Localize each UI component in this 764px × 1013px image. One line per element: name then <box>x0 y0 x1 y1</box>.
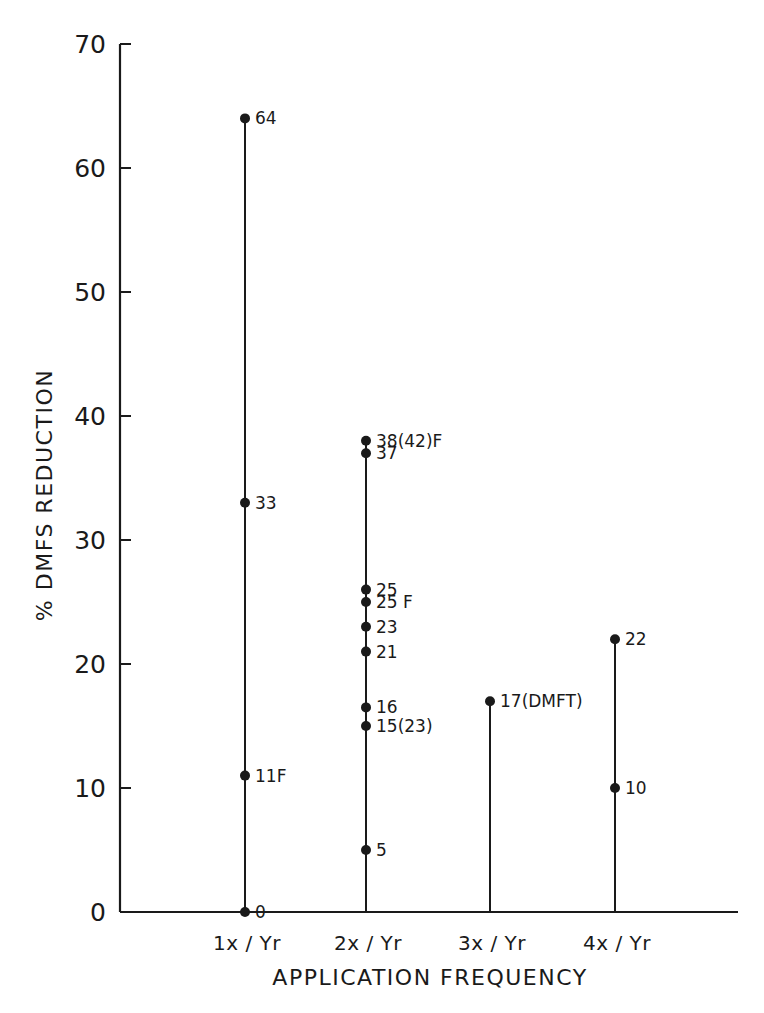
x-axis-title: APPLICATION FREQUENCY <box>272 965 587 990</box>
data-point-label: 64 <box>255 108 277 128</box>
y-tick-label: 0 <box>90 898 106 927</box>
data-point <box>610 634 620 644</box>
series-2x-per-year: 38(42)F372525 F23211615(23)5 <box>361 431 442 912</box>
data-point-label: 10 <box>625 778 647 798</box>
data-point-label: 22 <box>625 629 647 649</box>
data-point-label: 25 F <box>376 592 413 612</box>
y-tick-label: 60 <box>74 154 106 183</box>
data-point-label: 0 <box>255 902 266 922</box>
data-point-label: 33 <box>255 493 277 513</box>
data-point <box>240 113 250 123</box>
x-category-label: 2x / Yr <box>334 931 402 955</box>
x-axis: 1x / Yr2x / Yr3x / Yr4x / Yr <box>120 912 738 955</box>
data-point <box>361 702 371 712</box>
data-series: 643311F038(42)F372525 F23211615(23)517(D… <box>240 108 647 922</box>
data-point-label: 21 <box>376 642 398 662</box>
data-point <box>240 771 250 781</box>
y-axis: 010203040506070 <box>74 30 131 927</box>
y-tick-label: 10 <box>74 774 106 803</box>
data-point-label: 17(DMFT) <box>500 691 583 711</box>
x-category-label: 1x / Yr <box>213 931 281 955</box>
data-point-label: 16 <box>376 697 398 717</box>
series-1x-per-year: 643311F0 <box>240 108 286 922</box>
y-tick-label: 20 <box>74 650 106 679</box>
data-point <box>361 845 371 855</box>
data-point <box>485 696 495 706</box>
data-point <box>361 585 371 595</box>
data-point-label: 15(23) <box>376 716 433 736</box>
y-tick-label: 40 <box>74 402 106 431</box>
y-tick-label: 50 <box>74 278 106 307</box>
x-category-label: 4x / Yr <box>583 931 651 955</box>
data-point <box>361 622 371 632</box>
series-3x-per-year: 17(DMFT) <box>485 691 583 912</box>
y-tick-label: 30 <box>74 526 106 555</box>
y-tick-label: 70 <box>74 30 106 59</box>
data-point-label: 37 <box>376 443 398 463</box>
data-point-label: 11F <box>255 766 286 786</box>
data-point <box>361 647 371 657</box>
dmfs-reduction-chart: 010203040506070 1x / Yr2x / Yr3x / Yr4x … <box>0 0 764 1013</box>
data-point <box>361 448 371 458</box>
data-point <box>240 498 250 508</box>
data-point <box>361 436 371 446</box>
data-point <box>361 721 371 731</box>
data-point <box>610 783 620 793</box>
data-point <box>361 597 371 607</box>
data-point-label: 23 <box>376 617 398 637</box>
data-point <box>240 907 250 917</box>
data-point-label: 5 <box>376 840 387 860</box>
series-4x-per-year: 2210 <box>610 629 647 912</box>
y-axis-title: % DMFS REDUCTION <box>32 369 57 621</box>
x-category-label: 3x / Yr <box>458 931 526 955</box>
